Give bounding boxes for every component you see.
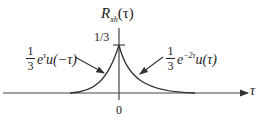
left-arrow [75, 57, 104, 73]
x-axis-label: τ [250, 84, 255, 98]
right-arrow [140, 57, 163, 74]
cross-correlation-diagram: Rxh(τ) 1/3 13 eτu(−τ) 13 e−2τu(τ) 0 τ [0, 0, 261, 126]
origin-label: 0 [116, 104, 122, 116]
right-label-expression: e−2τu(τ) [177, 52, 217, 67]
left-label-fraction: 13 [26, 45, 35, 72]
peak-value-label: 1/3 [94, 31, 109, 43]
y-axis-title: Rxh(τ) [101, 6, 134, 24]
left-label-expression: eτu(−τ) [37, 52, 77, 67]
right-label-fraction: 13 [166, 45, 175, 72]
left-exponential-curve [70, 45, 119, 93]
